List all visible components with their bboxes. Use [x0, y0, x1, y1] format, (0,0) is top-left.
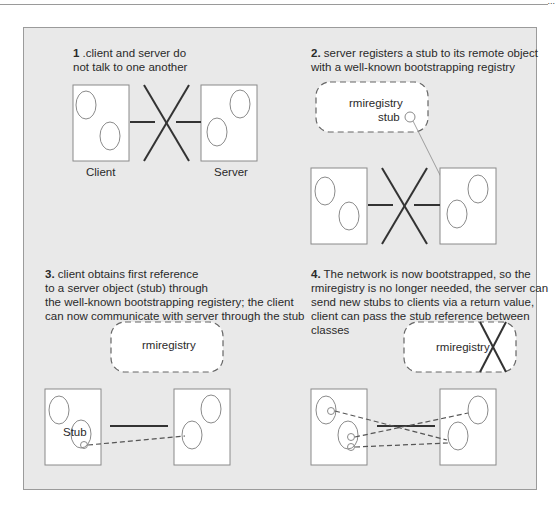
- stub-label: Stub: [63, 426, 87, 438]
- remote-reference-dashed-line: [88, 436, 185, 445]
- stub-label: stub: [378, 111, 400, 123]
- step-number: 2.: [311, 47, 321, 59]
- panel-4-caption: 4. The network is now bootstrapped, so t…: [311, 267, 548, 337]
- panel-3-caption: 3. client obtains first reference to a s…: [45, 267, 305, 323]
- rmiregistry-label: rmiregistry: [349, 97, 403, 109]
- client-box: [311, 389, 367, 465]
- panel-2-diagram: [311, 82, 496, 244]
- panel-1-diagram: [73, 85, 257, 161]
- server-box: [174, 389, 230, 465]
- panel-1-caption: 1 .client and server do not talk to one …: [73, 46, 187, 74]
- server-box: [440, 389, 496, 465]
- client-label: Client: [86, 166, 115, 178]
- panel-2-caption: 2. server registers a stub to its remote…: [311, 46, 538, 74]
- step-number: 4.: [311, 268, 321, 280]
- rmiregistry-label: rmiregistry: [142, 339, 196, 351]
- step-number: 3.: [45, 268, 55, 280]
- client-box: [73, 85, 129, 161]
- rmiregistry-label: rmiregistry: [436, 341, 490, 353]
- panel-3-diagram: [45, 322, 230, 465]
- remote-reference-dashed-line: [355, 443, 448, 447]
- server-label: Server: [214, 166, 248, 178]
